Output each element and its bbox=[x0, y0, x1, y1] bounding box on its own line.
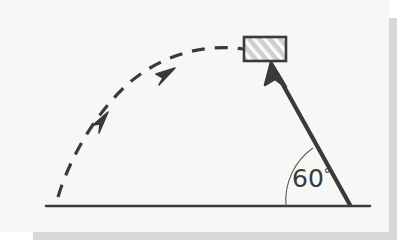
page-shadow-bottom bbox=[33, 231, 397, 240]
projectile-diagram bbox=[0, 0, 389, 232]
launch-vector-arrowhead-icon bbox=[265, 62, 286, 87]
figure-page: 60° bbox=[0, 0, 416, 249]
page-shadow-right bbox=[388, 18, 397, 231]
angle-value: 60 bbox=[292, 164, 324, 193]
trajectory-arrowhead-icon bbox=[156, 68, 175, 85]
angle-label: 60° bbox=[292, 166, 331, 191]
hatched-block bbox=[244, 37, 286, 61]
paper-panel: 60° bbox=[0, 0, 389, 232]
trajectory-path bbox=[58, 48, 243, 197]
degree-symbol: ° bbox=[324, 166, 331, 182]
